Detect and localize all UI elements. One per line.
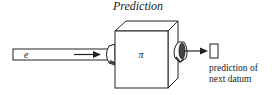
diagram-title: Prediction (112, 0, 163, 13)
box-top-face (115, 21, 178, 31)
output-label-line2: next datum (209, 74, 252, 84)
prediction-diagram: Prediction e π prediction of next datum (0, 0, 276, 95)
input-tube: e (13, 49, 109, 60)
output-datum-box (210, 44, 218, 58)
output-arrow-head (200, 48, 208, 55)
output-funnel (174, 42, 187, 62)
input-label: e (24, 49, 29, 60)
output-label-line1: prediction of (209, 63, 259, 73)
model-box: π (115, 21, 178, 88)
